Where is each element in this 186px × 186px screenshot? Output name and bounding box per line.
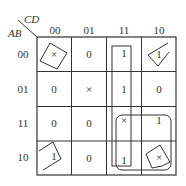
row-variable-label: AB: [8, 28, 21, 39]
cell-00-00: ×: [37, 37, 71, 71]
cell-00-11: 1: [107, 36, 141, 70]
cell-01-01: ×: [72, 72, 106, 106]
cell-11-00: 0: [37, 106, 71, 140]
cell-01-00: 0: [37, 72, 71, 106]
row-label-10: 10: [14, 152, 32, 163]
cell-11-10: 1: [142, 103, 176, 137]
col-label-11: 11: [115, 25, 133, 36]
cell-00-01: 0: [72, 37, 106, 71]
col-label-00: 00: [46, 25, 64, 36]
cell-01-11: 1: [107, 72, 141, 106]
col-label-01: 01: [80, 25, 98, 36]
cell-11-11: ×: [107, 103, 141, 137]
cell-10-10: ×: [142, 140, 176, 174]
cell-10-00: 1: [37, 139, 71, 173]
row-label-00: 00: [14, 49, 32, 60]
cell-01-10: 0: [142, 72, 176, 106]
row-label-11: 11: [14, 118, 32, 129]
cell-10-11: 1: [107, 143, 141, 177]
cell-11-01: 0: [72, 106, 106, 140]
col-variable-label: CD: [24, 14, 39, 25]
col-label-10: 10: [150, 25, 168, 36]
cell-10-01: 0: [72, 141, 106, 175]
row-label-01: 01: [14, 84, 32, 95]
cell-00-10: 1: [142, 37, 176, 71]
